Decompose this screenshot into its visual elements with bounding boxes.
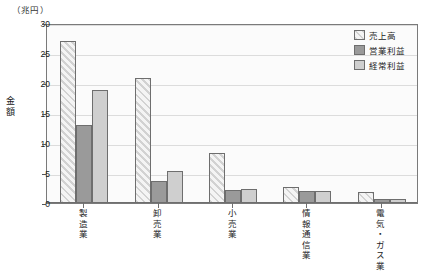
bar <box>241 189 257 203</box>
bar <box>135 78 151 203</box>
x-axis-label-char: 売 <box>223 219 241 230</box>
light-gray-swatch <box>354 60 365 70</box>
y-axis-tick-mark <box>42 84 46 85</box>
bar <box>76 125 92 203</box>
y-axis-title-char: 金 <box>3 96 17 107</box>
x-axis-label-char: 情 <box>297 208 315 219</box>
x-axis-label-char: 卸 <box>149 208 167 219</box>
x-axis-label-char: 電 <box>372 208 390 219</box>
y-axis-tick-mark <box>42 174 46 175</box>
x-axis-label-char: 報 <box>297 219 315 230</box>
x-axis-label-char: 通 <box>297 229 315 240</box>
dark-gray-swatch <box>354 45 365 55</box>
diagonal-hatch-swatch <box>354 30 365 40</box>
y-axis-tick-mark <box>42 114 46 115</box>
x-axis-label-char: 小 <box>223 208 241 219</box>
bar-group <box>208 23 258 203</box>
bar <box>60 41 76 203</box>
y-axis-tick-mark <box>42 204 46 205</box>
x-axis-label-char: 業 <box>297 250 315 261</box>
x-axis-label-char: 信 <box>297 240 315 251</box>
bar <box>390 199 406 203</box>
bar <box>167 171 183 203</box>
x-axis-label-char: 業 <box>74 229 92 240</box>
x-axis-label-char: 造 <box>74 219 92 230</box>
y-axis-tick-mark <box>42 144 46 145</box>
x-axis-label-5: 電気・ガス業 <box>372 208 390 271</box>
bar <box>374 199 390 203</box>
bar-group <box>59 23 109 203</box>
bar <box>358 192 374 203</box>
y-axis-tick-mark <box>42 24 46 25</box>
chart-legend: 売上高営業利益経常利益 <box>352 27 424 73</box>
x-axis-label-char: 業 <box>149 229 167 240</box>
x-axis-label-3: 小売業 <box>223 208 241 240</box>
bar <box>299 191 315 203</box>
legend-item: 売上高 <box>354 29 424 41</box>
legend-item: 営業利益 <box>354 44 424 56</box>
y-axis-title-char: 額 <box>3 107 17 118</box>
x-axis-label-char: 売 <box>149 219 167 230</box>
bar <box>315 191 331 203</box>
x-axis-labels: 製造業卸売業小売業情報通信業電気・ガス業 <box>46 208 418 268</box>
bar <box>225 190 241 203</box>
legend-item: 経常利益 <box>354 59 424 71</box>
x-axis-label-char: ガ <box>372 240 390 251</box>
x-axis-label-char: 製 <box>74 208 92 219</box>
x-axis-label-char: 業 <box>223 229 241 240</box>
legend-label: 経常利益 <box>369 59 405 71</box>
bar-group <box>282 23 332 203</box>
x-axis-label-2: 卸売業 <box>149 208 167 240</box>
bar <box>283 187 299 203</box>
bar <box>209 153 225 203</box>
y-axis-title: 金 額 <box>3 96 17 118</box>
x-axis-label-4: 情報通信業 <box>297 208 315 261</box>
bar <box>92 90 108 203</box>
x-axis-label-char: 気 <box>372 219 390 230</box>
unit-label: （兆円） <box>12 3 49 15</box>
x-axis-label-char: ス <box>372 250 390 261</box>
y-axis-tick-mark <box>42 54 46 55</box>
x-axis-label-char: ・ <box>372 229 390 240</box>
bar-group <box>134 23 184 203</box>
x-axis-label-char: 業 <box>372 261 390 271</box>
bar <box>151 181 167 203</box>
x-axis-label-1: 製造業 <box>74 208 92 240</box>
legend-label: 営業利益 <box>369 44 405 56</box>
legend-label: 売上高 <box>369 29 396 41</box>
